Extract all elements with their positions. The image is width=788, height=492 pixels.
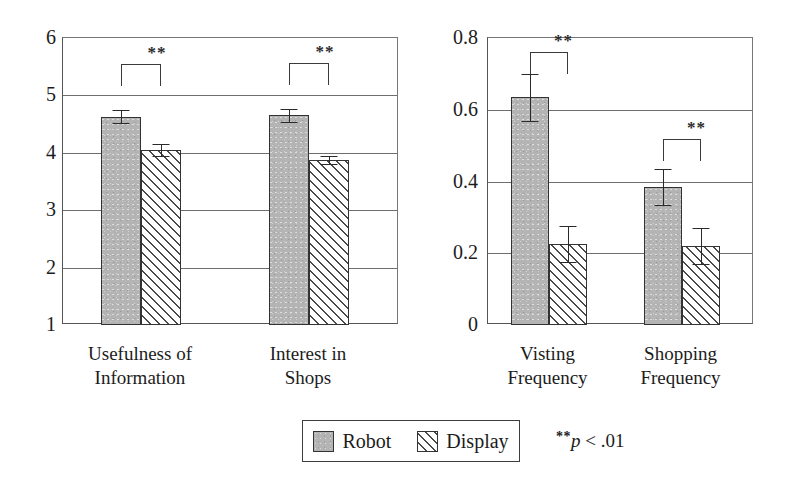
right-chart-panel: 00.20.40.60.8 **** VistingFrequencyShopp… (0, 0, 788, 410)
right-chart-error-bar (663, 169, 664, 205)
significance-note: **p < .01 (556, 430, 624, 450)
right-chart-error-bar (701, 228, 702, 264)
legend-label-robot: Robot (342, 431, 391, 451)
right-chart-y-tick-label: 0.4 (453, 171, 478, 191)
right-chart-significance-bracket (663, 139, 701, 161)
right-chart-error-cap (559, 262, 576, 263)
significance-p-symbol: p (571, 430, 581, 451)
display-swatch-icon (417, 431, 438, 452)
right-chart-error-cap (521, 74, 538, 75)
right-chart-significance-stars: ** (554, 32, 573, 49)
right-chart-error-bar (568, 226, 569, 262)
right-chart-significance-stars: ** (687, 119, 706, 136)
right-chart-error-cap (559, 226, 576, 227)
right-chart-category-label-line: Frequency (507, 366, 587, 390)
right-chart-bar-robot (644, 187, 682, 325)
right-chart-category-label-line: Frequency (640, 366, 720, 390)
right-chart-error-cap (654, 205, 671, 206)
right-chart-category-label: VistingFrequency (507, 342, 587, 390)
significance-threshold: < .01 (581, 430, 625, 451)
right-chart-category-label: ShoppingFrequency (640, 342, 720, 390)
right-chart-error-cap (654, 169, 671, 170)
right-chart-category-label-line: Visting (507, 342, 587, 366)
legend-entry-robot: Robot (313, 431, 391, 452)
right-chart-bar-robot (511, 97, 549, 325)
robot-swatch-icon (313, 431, 334, 452)
right-chart-y-tick-label: 0.8 (453, 27, 478, 47)
significance-stars: ** (556, 429, 571, 444)
right-chart-category-label-line: Shopping (640, 342, 720, 366)
right-chart-y-axis: 00.20.40.60.8 (434, 0, 478, 410)
chart-legend: Robot Display (302, 420, 520, 462)
right-chart-plot-area: **** (487, 37, 753, 324)
legend-label-display: Display (446, 431, 508, 451)
right-chart-error-bar (530, 74, 531, 121)
right-chart-error-cap (521, 121, 538, 122)
bar-chart-figure: 123456 **** Usefulness ofInformationInte… (0, 0, 788, 492)
legend-entry-display: Display (417, 431, 508, 452)
right-chart-error-cap (692, 228, 709, 229)
right-chart-error-cap (692, 264, 709, 265)
right-chart-y-tick-label: 0.2 (453, 242, 478, 262)
right-chart-y-tick-label: 0.6 (453, 99, 478, 119)
right-chart-y-tick-label: 0 (468, 314, 478, 334)
right-chart-significance-bracket (530, 52, 568, 74)
